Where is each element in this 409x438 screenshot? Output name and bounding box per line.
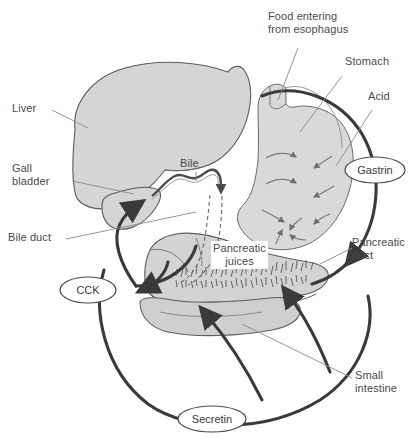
- label-food-entering: Food entering from esophagus: [268, 10, 348, 36]
- label-pancreatic-duct: Pancreatic duct: [352, 236, 405, 262]
- label-pancreatic-juices: Pancreatic juices: [211, 241, 268, 269]
- hormone-label-cck: CCK: [76, 284, 100, 296]
- label-stomach: Stomach: [345, 55, 389, 68]
- hormone-label-gastrin: Gastrin: [357, 164, 392, 176]
- stomach-organ: [237, 84, 353, 250]
- label-gall-bladder: Gall bladder: [12, 162, 49, 188]
- hormone-oval-cck: CCK: [60, 277, 116, 303]
- hormone-label-secretin: Secretin: [192, 413, 232, 425]
- label-acid: Acid: [368, 90, 390, 103]
- label-small-intestine: Small intestine: [355, 369, 397, 395]
- label-bile-duct: Bile duct: [8, 231, 51, 244]
- label-bile: Bile: [180, 157, 199, 170]
- diagram-canvas: CCK Gastrin Secretin Liver Gall bladder …: [0, 0, 409, 438]
- hormone-oval-secretin: Secretin: [178, 406, 246, 432]
- hormone-oval-gastrin: Gastrin: [345, 157, 405, 183]
- label-liver: Liver: [12, 102, 36, 115]
